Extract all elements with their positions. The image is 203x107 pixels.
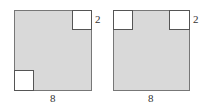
cutout-bottom-left <box>14 70 34 91</box>
side-label: 8 <box>148 93 154 104</box>
cutout-top-right <box>72 10 92 30</box>
corner-label: 2 <box>95 14 101 25</box>
side-label: 8 <box>50 93 56 104</box>
corner-label: 2 <box>193 14 199 25</box>
cutout-top-right <box>169 10 190 30</box>
cutout-top-left <box>113 10 133 30</box>
